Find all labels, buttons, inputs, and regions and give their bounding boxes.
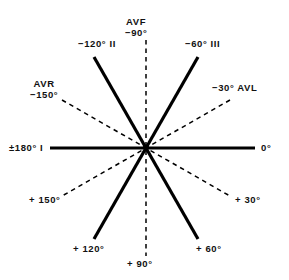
label-avr-angle: −150°	[30, 89, 58, 100]
label-avr-minus150: AVR −150°	[30, 78, 58, 100]
label-minus60-lead3: −60° III	[185, 38, 220, 49]
label-plus150: + 150°	[29, 194, 60, 205]
label-avf-lead: AVF	[125, 16, 147, 27]
label-minus120-lead2: −120° II	[78, 38, 116, 49]
label-minus30-avl: −30° AVL	[212, 82, 257, 93]
label-avr-lead: AVR	[30, 78, 58, 89]
label-plus120: + 120°	[73, 243, 104, 254]
label-plus30: + 30°	[235, 194, 261, 205]
hexaxial-reference-diagram: AVF −90° −120° II −60° III AVR −150° −30…	[0, 0, 289, 280]
label-plus90: + 90°	[127, 258, 153, 269]
label-plus60: + 60°	[196, 243, 222, 254]
label-avf-angle: −90°	[125, 27, 147, 38]
axes-svg	[0, 0, 289, 280]
label-avf-minus90: AVF −90°	[125, 16, 147, 38]
label-plus-minus180-lead1: ±180° I	[9, 142, 43, 153]
label-zero-degrees: 0°	[261, 142, 271, 153]
